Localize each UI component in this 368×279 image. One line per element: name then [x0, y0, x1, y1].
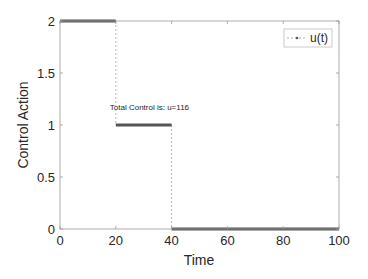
total-control-annotation: Total Control is: u=116 — [110, 103, 190, 112]
x-tick-label: 40 — [164, 233, 178, 248]
x-tick-label: 20 — [109, 233, 123, 248]
x-tick-label: 0 — [56, 233, 63, 248]
x-tick-label: 60 — [220, 233, 234, 248]
legend-entry-u: u(t) — [310, 31, 328, 45]
plot-area — [60, 21, 339, 229]
legend-marker — [296, 37, 299, 40]
x-tick-label: 100 — [328, 233, 350, 248]
axes: 02040608010000.511.52 — [37, 14, 350, 248]
y-tick-label: 1.5 — [37, 66, 55, 81]
y-tick-label: 0 — [48, 222, 55, 237]
step-chart: 02040608010000.511.52 Time Control Actio… — [0, 0, 368, 279]
y-tick-label: 1 — [48, 118, 55, 133]
y-tick-label: 2 — [48, 14, 55, 29]
y-axis-label: Control Action — [15, 81, 31, 168]
y-tick-label: 0.5 — [37, 170, 55, 185]
x-tick-label: 80 — [276, 233, 290, 248]
legend: u(t) — [284, 29, 332, 47]
x-axis-label: Time — [184, 252, 215, 268]
axes-box — [60, 21, 339, 229]
